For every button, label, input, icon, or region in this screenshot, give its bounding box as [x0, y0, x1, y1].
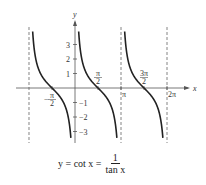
axes: xy — [16, 10, 197, 143]
x-tick-label-denominator: 2 — [142, 77, 146, 86]
formula-denominator: tan x — [106, 164, 126, 175]
x-axis-label: x — [192, 84, 197, 93]
x-axis-arrow — [184, 86, 190, 90]
x-tick-label: π — [122, 90, 126, 99]
formula-fraction: 1 tan x — [106, 152, 126, 175]
y-tick-label: 1 — [66, 70, 70, 79]
x-tick-label-sign: − — [44, 95, 49, 104]
cot-chart: xy 321−1−2−3π2−π2π3π22π — [0, 0, 206, 145]
formula-lhs: y = cot x = — [58, 158, 102, 169]
x-tick-label-denominator: 2 — [96, 77, 100, 86]
formula-numerator: 1 — [111, 152, 120, 164]
y-tick-label: −2 — [79, 113, 88, 122]
y-axis-label: y — [72, 10, 77, 19]
y-axis-arrow — [73, 20, 77, 26]
y-tick-label: 3 — [66, 41, 70, 50]
y-tick-label: −1 — [79, 99, 88, 108]
caption-formula: y = cot x = 1 tan x — [58, 148, 168, 178]
y-tick-label: −3 — [79, 128, 88, 137]
ticks: 321−1−2−3π2−π2π3π22π — [44, 41, 176, 137]
x-tick-label-denominator: 2 — [50, 99, 54, 108]
y-tick-label: 2 — [66, 55, 70, 64]
x-tick-label: 2π — [168, 90, 176, 99]
